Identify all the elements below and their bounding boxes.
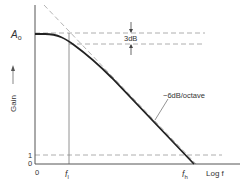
x-axis-label: Log f <box>206 169 225 178</box>
3db-label: 3dB <box>124 34 137 43</box>
3db-arrowhead-top-icon <box>129 29 133 33</box>
fh-label: fh <box>182 169 188 180</box>
slope-leader-line <box>155 99 168 120</box>
slope-label: −6dB/octave <box>163 91 205 100</box>
3db-arrowhead-bottom-icon <box>129 44 133 48</box>
y-tick-zero: 0 <box>28 159 32 168</box>
gain-axis-label: Gain <box>9 95 18 112</box>
asymptote-line <box>44 5 196 164</box>
bode-plot: Ao Gain 3dB −6dB/octave 1 0 0 fl fh Log … <box>0 0 250 188</box>
a0-label: Ao <box>10 29 22 41</box>
gain-arrowhead-icon <box>11 65 15 71</box>
fl-label: fl <box>65 169 69 180</box>
x-tick-zero: 0 <box>35 168 39 177</box>
